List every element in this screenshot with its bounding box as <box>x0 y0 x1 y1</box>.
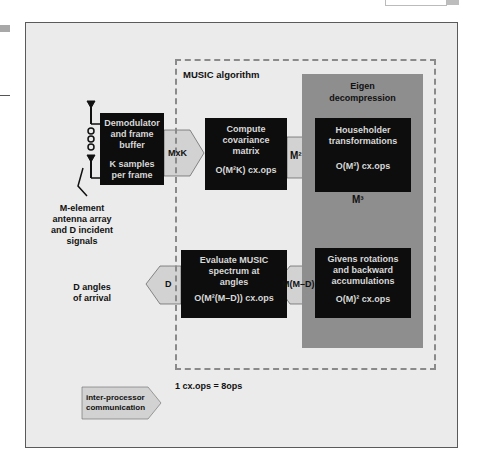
householder-block: Householder transformations O(M³) cx.ops <box>315 118 411 192</box>
legend-arrow-label: inter-processor communication <box>82 393 150 413</box>
block-line: transformations <box>315 136 411 147</box>
eigen-label-line1: Eigen <box>302 80 423 92</box>
label-line: communication <box>86 403 150 413</box>
label-line: and D incident <box>42 225 122 236</box>
block-line: and backward <box>315 265 411 276</box>
block-subline: per frame <box>100 170 164 181</box>
block-line: spectrum at <box>181 266 287 277</box>
eigen-label-line2: decompression <box>302 92 423 104</box>
block-line: Givens rotations <box>315 254 411 265</box>
givens-block: Givens rotations and backward accumulati… <box>315 248 411 318</box>
block-subline: K samples <box>100 159 164 170</box>
covariance-block: Compute covariance matrix O(M²K) cx.ops <box>205 118 287 190</box>
arrow-label-m-m-d: M(M–D) <box>282 279 315 289</box>
label-line: of arrival <box>70 293 114 304</box>
label-line: inter-processor <box>86 393 150 403</box>
arrow-label-mxk: MxK <box>168 148 187 158</box>
antenna-array-label: M-element antenna array and D incident s… <box>42 203 122 247</box>
demodulator-block: Demodulator and frame buffer K samples p… <box>100 113 164 185</box>
block-line: angles <box>181 277 287 288</box>
music-algorithm-title: MUSIC algorithm <box>183 69 260 80</box>
block-line: matrix <box>205 146 287 157</box>
label-line: signals <box>42 236 122 247</box>
ops-conversion-note: 1 cx.ops = 8ops <box>175 381 242 391</box>
block-line: buffer <box>100 140 164 151</box>
block-line: Demodulator <box>100 118 164 129</box>
arrow-label-m3: M³ <box>352 194 364 205</box>
block-line: Evaluate MUSIC <box>181 255 287 266</box>
antenna-icon <box>78 101 100 196</box>
block-line: Compute <box>205 124 287 135</box>
block-line: Householder <box>315 125 411 136</box>
label-line: D angles <box>70 282 114 293</box>
angles-of-arrival-label: D angles of arrival <box>70 282 114 304</box>
arrow-label-d: D <box>165 279 172 289</box>
block-ops: O(M)² cx.ops <box>315 294 411 305</box>
block-line: covariance <box>205 135 287 146</box>
label-line: M-element <box>42 203 122 214</box>
block-ops: O(M³) cx.ops <box>315 161 411 172</box>
block-ops: O(M²K) cx.ops <box>205 165 287 176</box>
label-line: antenna array <box>42 214 122 225</box>
arrow-label-m2: M² <box>290 150 302 161</box>
eigen-decomposition-label: Eigen decompression <box>302 80 423 104</box>
block-line: and frame <box>100 129 164 140</box>
block-line: accumulations <box>315 276 411 287</box>
evaluate-spectrum-block: Evaluate MUSIC spectrum at angles O(M²(M… <box>181 250 287 318</box>
block-ops: O(M²(M–D)) cx.ops <box>181 293 287 304</box>
